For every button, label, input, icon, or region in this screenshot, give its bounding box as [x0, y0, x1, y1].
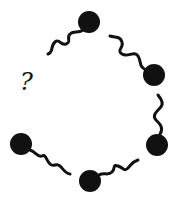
tadpole-bottom [79, 160, 138, 192]
ball [146, 134, 168, 156]
wavy-tail [99, 160, 138, 175]
ball [78, 11, 100, 33]
ball [79, 170, 101, 192]
tadpole-left [10, 133, 70, 174]
tadpole-right [146, 95, 168, 156]
tadpole-ring-diagram: ? [0, 0, 179, 205]
question-mark-label: ? [20, 68, 33, 96]
ball [143, 64, 165, 86]
tadpole-upper-right [110, 36, 165, 86]
wavy-tail [110, 36, 146, 70]
wavy-tail [30, 150, 70, 174]
wavy-tail [154, 95, 162, 134]
tadpole-top [48, 11, 100, 54]
wavy-tail [48, 30, 83, 54]
ball [10, 133, 32, 155]
